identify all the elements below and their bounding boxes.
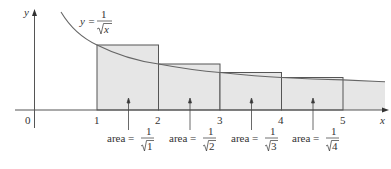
y-axis-label: y (23, 6, 29, 18)
area-label-radicand: 4 (332, 140, 338, 152)
x-tick-4: 4 (278, 114, 284, 126)
x-axis-label: x (379, 114, 385, 126)
riemann-sum-diagram: y x 0 1 2 3 4 5 y = 1 x area = 1 1 area … (0, 0, 391, 169)
x-tick-5: 5 (340, 114, 346, 126)
curve-label-numerator: 1 (101, 8, 107, 20)
area-label-numerator: 1 (331, 125, 337, 137)
curve-label-lhs: y = (79, 15, 95, 27)
area-label-radicand: 1 (147, 140, 153, 152)
area-label-radicand: 2 (209, 140, 215, 152)
area-label-4: area = 1 4 (292, 125, 339, 152)
x-tick-3: 3 (217, 114, 223, 126)
origin-label: 0 (25, 114, 31, 126)
area-label-3: area = 1 3 (231, 125, 278, 152)
x-tick-2: 2 (155, 114, 161, 126)
y-axis-arrow-icon (32, 9, 37, 16)
area-label-2: area = 1 2 (169, 125, 216, 152)
curve-label: y = 1 x (79, 8, 112, 35)
shaded-tail-region (343, 80, 385, 110)
area-label-prefix: area = (231, 132, 258, 144)
area-label-numerator: 1 (146, 125, 152, 137)
area-label-prefix: area = (169, 132, 196, 144)
area-label-prefix: area = (292, 132, 319, 144)
curve-label-denominator: x (103, 23, 109, 35)
area-label-radicand: 3 (271, 140, 277, 152)
area-label-numerator: 1 (270, 125, 276, 137)
area-label-numerator: 1 (208, 125, 214, 137)
area-label-prefix: area = (107, 132, 134, 144)
rectangle-3 (220, 73, 282, 111)
rectangle-4 (282, 78, 344, 111)
area-label-1: area = 1 1 (107, 125, 154, 152)
x-tick-1: 1 (94, 114, 100, 126)
x-axis-arrow-icon (382, 108, 389, 113)
